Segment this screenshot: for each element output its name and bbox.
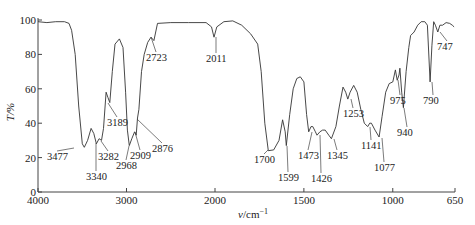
peak-leader-line (370, 127, 371, 140)
peak-leader-line (432, 82, 433, 95)
y-tick-label: 20 (25, 152, 37, 164)
peak-leader-line (320, 135, 321, 173)
ir-spectrum-chart: 020406080100 40003000200015001000650 347… (0, 0, 475, 225)
x-tick-label: 2000 (204, 194, 227, 206)
peak-label: 790 (423, 95, 439, 106)
x-tick-label: 3000 (116, 194, 139, 206)
y-tick-label: 80 (25, 48, 37, 60)
x-ticks: 40003000200015001000650 (27, 188, 464, 206)
peak-label: 1141 (361, 140, 382, 151)
peak-label: 2909 (130, 150, 151, 161)
peak-label: 3477 (47, 151, 68, 162)
y-axis-title: T/% (4, 103, 16, 121)
peak-label: 1473 (298, 150, 319, 161)
x-axis-title-unit: /cm (243, 208, 260, 220)
peak-labels: 3477334032823189296829092876272320111700… (47, 32, 453, 184)
peak-leader-line (382, 138, 384, 162)
peak-label: 3340 (86, 171, 107, 182)
peak-label: 2876 (152, 143, 173, 154)
peak-label: 747 (437, 41, 453, 52)
x-tick-label: 1000 (382, 194, 405, 206)
peak-leader-line (351, 99, 353, 108)
peak-label: 3189 (107, 117, 128, 128)
x-tick-label: 1500 (293, 194, 316, 206)
y-ticks: 020406080100 (20, 14, 43, 198)
peak-label: 2968 (116, 160, 137, 171)
x-axis-title: v/cm−1 (238, 207, 268, 220)
peak-leader-line (308, 132, 312, 150)
y-tick-label: 60 (25, 83, 37, 95)
peak-leader-line (101, 141, 108, 151)
peak-leader-line (440, 32, 447, 41)
spectrum-line (38, 21, 454, 151)
x-axis-title-exponent: −1 (259, 207, 268, 216)
x-tick-label: 650 (447, 194, 464, 206)
peak-label: 940 (397, 127, 413, 138)
peak-leader-line (151, 37, 156, 52)
peak-leader-line (137, 119, 162, 143)
peak-label: 1077 (374, 162, 395, 173)
y-tick-label: 40 (25, 117, 37, 129)
peak-leader-line (404, 108, 407, 127)
peak-leader-line (135, 132, 140, 150)
peak-label: 1426 (311, 173, 332, 184)
peak-label: 1700 (254, 154, 275, 165)
peak-leader-line (126, 146, 129, 160)
peak-label: 975 (390, 95, 406, 106)
peak-leader-line (287, 146, 288, 172)
peak-label: 2011 (206, 53, 227, 64)
peak-label: 1253 (343, 108, 364, 119)
peak-label: 1599 (278, 172, 299, 183)
peak-leader-line (398, 80, 400, 95)
x-tick-label: 4000 (27, 194, 50, 206)
peak-label: 1345 (327, 150, 348, 161)
peak-leader-line (334, 139, 337, 150)
y-tick-label: 100 (20, 14, 37, 26)
peak-label: 2723 (146, 52, 167, 63)
peak-leader-line (108, 103, 117, 117)
